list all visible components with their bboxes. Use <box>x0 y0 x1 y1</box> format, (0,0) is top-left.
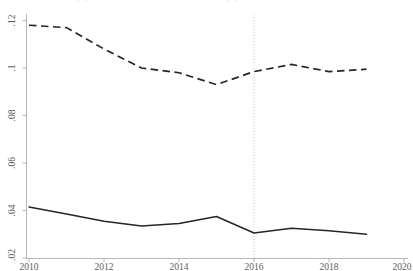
y-tick-label: .04 <box>7 204 17 216</box>
dashed-series-line <box>29 25 367 84</box>
x-tick-label: 2018 <box>320 262 339 271</box>
solid-series-line <box>29 207 367 234</box>
y-tick-labels: .12 .1 .08 .06 .04 .02 <box>7 14 17 261</box>
y-tick-label: .1 <box>7 64 17 71</box>
y-tick-label: .06 <box>7 157 17 169</box>
x-tick-label: 2014 <box>170 262 189 271</box>
y-tick-label: .08 <box>7 109 17 121</box>
y-tick-marks <box>23 21 27 259</box>
x-tick-label: 2010 <box>20 262 39 271</box>
figure-container: 図3-2 日本の多国籍企業の海外売上高に占める米国・その他シェア .12 .1 … <box>0 0 413 271</box>
chart-svg: .12 .1 .08 .06 .04 .02 2010 2012 2014 <box>0 0 413 271</box>
x-tick-label: 2020 <box>393 262 412 271</box>
x-tick-labels: 2010 2012 2014 2016 2018 2020 <box>20 262 412 271</box>
x-tick-label: 2012 <box>95 262 114 271</box>
x-tick-marks <box>29 259 404 263</box>
y-tick-label: .12 <box>7 14 17 26</box>
y-tick-label: .02 <box>7 249 17 261</box>
x-tick-label: 2016 <box>245 262 264 271</box>
plot-area: .12 .1 .08 .06 .04 .02 2010 2012 2014 <box>0 0 413 271</box>
